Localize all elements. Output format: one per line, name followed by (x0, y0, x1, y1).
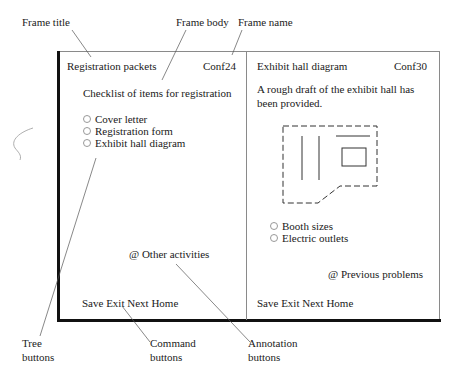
leader-lines (40, 30, 250, 342)
overlay-graphics (0, 0, 455, 382)
exhibit-hall-diagram (283, 126, 377, 203)
stray-pen-mark (14, 128, 33, 160)
